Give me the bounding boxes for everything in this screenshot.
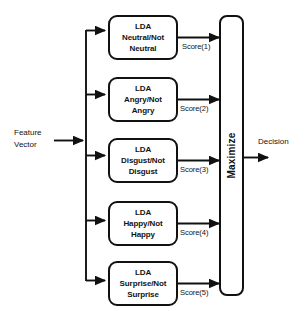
- score-label-1: Score(1): [182, 42, 210, 51]
- lda-happy-line2: Happy/Not: [123, 218, 162, 229]
- lda-surprise-line2: Surprise/Not: [120, 278, 167, 289]
- lda-angry-line1: LDA: [135, 83, 151, 94]
- block-diagram: Feature Vector LDA Neutral/Not Neutral L…: [0, 0, 307, 311]
- score-label-3: Score(3): [180, 165, 208, 174]
- score-label-2: Score(2): [180, 104, 208, 113]
- lda-box-neutral[interactable]: LDA Neutral/Not Neutral: [108, 15, 178, 60]
- lda-neutral-line1: LDA: [135, 21, 151, 32]
- decision-label: Decision: [258, 136, 289, 148]
- maximize-label: Maximize: [226, 132, 237, 178]
- lda-angry-line2: Angry/Not: [124, 94, 162, 105]
- lda-angry-line3: Angry: [132, 105, 155, 116]
- lda-disgust-line1: LDA: [135, 144, 151, 155]
- lda-neutral-line2: Neutral/Not: [122, 32, 164, 43]
- score-label-4: Score(4): [180, 228, 208, 237]
- feature-vector-label-line1: Feature: [14, 127, 42, 139]
- feature-vector-label: Feature Vector: [14, 127, 42, 150]
- lda-box-angry[interactable]: LDA Angry/Not Angry: [108, 77, 178, 122]
- feature-vector-label-line2: Vector: [14, 139, 42, 151]
- score-label-5: Score(5): [180, 288, 208, 297]
- lda-happy-line1: LDA: [135, 207, 151, 218]
- lda-box-disgust[interactable]: LDA Disgust/Not Disgust: [108, 138, 178, 183]
- lda-box-surprise[interactable]: LDA Surprise/Not Surprise: [108, 261, 178, 306]
- lda-disgust-line2: Disgust/Not: [121, 155, 165, 166]
- lda-surprise-line1: LDA: [135, 267, 151, 278]
- lda-box-happy[interactable]: LDA Happy/Not Happy: [108, 201, 178, 246]
- lda-neutral-line3: Neutral: [130, 43, 157, 54]
- maximize-block[interactable]: Maximize: [219, 15, 244, 296]
- lda-surprise-line3: Surprise: [127, 289, 159, 300]
- lda-happy-line3: Happy: [131, 229, 155, 240]
- lda-disgust-line3: Disgust: [129, 166, 158, 177]
